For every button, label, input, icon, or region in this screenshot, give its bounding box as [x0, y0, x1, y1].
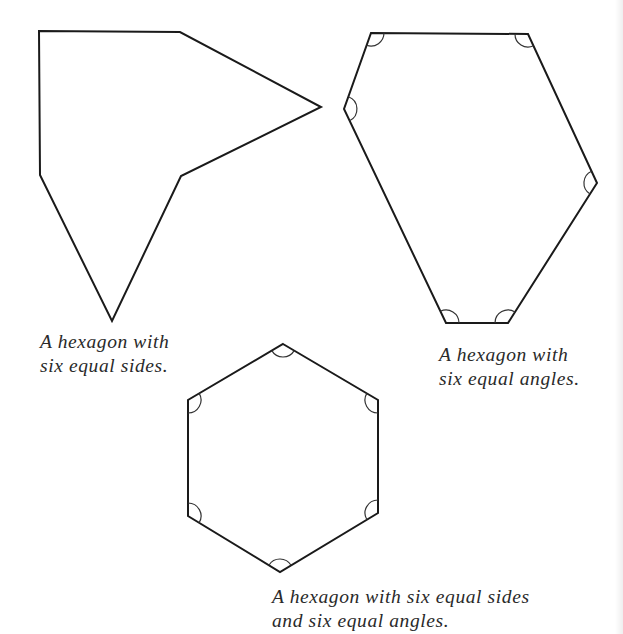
angle-arc-icon [348, 97, 357, 121]
irregular-hexagon-equal-sides [39, 31, 321, 321]
hexagon-diagram [0, 0, 623, 634]
caption-line: six equal angles. [439, 367, 580, 391]
hexagon-outline [188, 344, 378, 572]
angle-arc-icon [272, 351, 294, 357]
regular-hexagon [188, 344, 378, 572]
angle-arc-icon [269, 559, 291, 565]
caption-equal-sides: A hexagon with six equal sides. [40, 330, 169, 378]
caption-line: A hexagon with six equal sides [272, 585, 530, 609]
caption-line: six equal sides. [40, 354, 169, 378]
equiangular-hexagon [344, 33, 597, 323]
caption-equal-angles: A hexagon with six equal angles. [439, 343, 580, 391]
page-edge-shadow [615, 0, 623, 634]
caption-line: A hexagon with [439, 343, 580, 367]
caption-line: A hexagon with [40, 330, 169, 354]
angle-arc-icon [584, 171, 592, 194]
hexagon-outline [344, 33, 597, 323]
caption-line: and six equal angles. [272, 609, 530, 633]
hexagon-outline [39, 31, 321, 321]
caption-regular-hexagon: A hexagon with six equal sides and six e… [272, 585, 530, 633]
